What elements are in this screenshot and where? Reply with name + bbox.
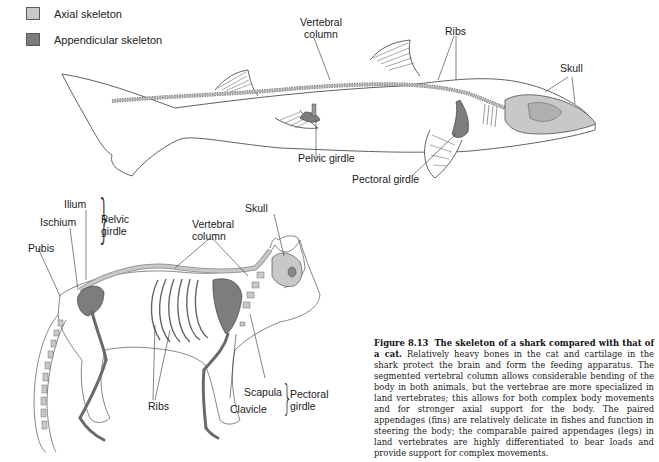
label-line-2: column [192,230,234,242]
figure-caption: Figure 8.13 The skeleton of a shark comp… [374,338,654,459]
shark-label-pelvic-girdle: Pelvic girdle [298,152,355,164]
label-line-1: Vertebral [300,16,342,28]
shark-label-pectoral-girdle: Pectoral girdle [352,173,419,185]
cat-label-pectoral-girdle: Pectoral girdle [290,388,329,412]
figure-body: Relatively heavy bones in the cat and ca… [374,349,654,458]
shark-label-vertebral-column: Vertebral column [300,16,342,40]
label-line-1: Pectoral [290,388,329,400]
cat-label-scapula: Scapula [244,386,282,398]
label-line-1: Pelvic [101,213,129,225]
shark-label-ribs: Ribs [445,25,466,37]
cat-label-ischium: Ischium [40,216,76,228]
cat-label-vertebral-column: Vertebral column [192,218,234,242]
cat-label-skull: Skull [245,202,268,214]
label-line-2: column [300,28,342,40]
cat-label-ilium: Ilium [64,198,86,210]
cat-label-clavicle: Clavicle [230,403,267,415]
cat-label-ribs: Ribs [148,400,169,412]
figure-number: Figure 8.13 [374,338,428,348]
cat-label-pubis: Pubis [28,242,54,254]
cat-label-pelvic-girdle: Pelvic girdle [101,213,129,237]
label-line-1: Vertebral [192,218,234,230]
label-line-2: girdle [290,400,329,412]
shark-label-skull: Skull [560,62,583,74]
label-line-2: girdle [101,225,129,237]
